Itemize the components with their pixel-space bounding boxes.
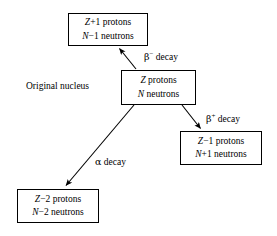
- node-beta-plus-daughter-line2: N+1 neutrons: [195, 148, 247, 161]
- proton-text: −1 protons: [203, 136, 244, 146]
- beta-minus-decay-label: β− decay: [144, 52, 178, 63]
- node-alpha-daughter[interactable]: Z−2 protons N−2 neutrons: [17, 189, 99, 223]
- proton-text: +1 protons: [90, 17, 131, 27]
- proton-text: protons: [146, 75, 177, 85]
- original-nucleus-label: Original nucleus: [26, 82, 89, 92]
- neutron-text: −2 neutrons: [39, 207, 84, 217]
- node-parent-nucleus[interactable]: Z protons N neutrons: [121, 70, 196, 105]
- node-beta-minus-daughter[interactable]: Z+1 protons N−1 neutrons: [68, 13, 148, 46]
- node-beta-plus-daughter[interactable]: Z−1 protons N+1 neutrons: [180, 131, 262, 165]
- node-alpha-daughter-line1: Z−2 protons: [35, 193, 81, 206]
- node-alpha-daughter-line2: N−2 neutrons: [32, 206, 84, 219]
- node-parent-line2: N neutrons: [138, 88, 179, 101]
- alpha-decay-label: α decay: [95, 157, 126, 168]
- node-beta-plus-daughter-line1: Z−1 protons: [198, 135, 244, 148]
- node-beta-minus-daughter-line1: Z+1 protons: [85, 16, 131, 29]
- beta-plus-decay-label: β+ decay: [206, 114, 240, 125]
- beta-minus-decay-text: decay: [153, 52, 178, 62]
- neutron-text: −1 neutrons: [89, 31, 134, 41]
- node-beta-minus-daughter-line2: N−1 neutrons: [82, 30, 134, 43]
- proton-text: −2 protons: [40, 194, 81, 204]
- neutron-text: +1 neutrons: [202, 149, 247, 159]
- alpha-decay-arrow: [66, 105, 134, 186]
- decay-diagram: Z+1 protons N−1 neutrons Z protons N neu…: [0, 0, 277, 236]
- alpha-decay-text: decay: [101, 157, 126, 167]
- beta-plus-decay-arrow: [182, 105, 201, 129]
- beta-minus-decay-arrow: [120, 49, 137, 70]
- beta-plus-decay-text: decay: [215, 114, 240, 124]
- neutron-text: neutrons: [144, 89, 179, 99]
- node-parent-line1: Z protons: [140, 74, 176, 87]
